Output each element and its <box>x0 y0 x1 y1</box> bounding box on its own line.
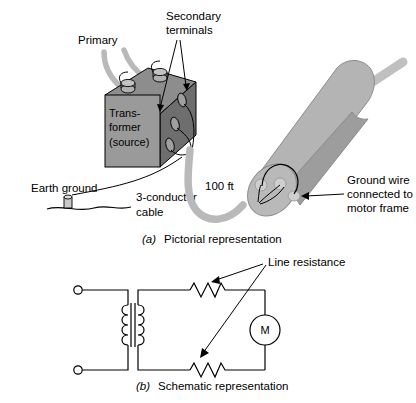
caption-b-index: (b) <box>136 380 150 392</box>
transformer-label-line1: Trans- <box>109 107 141 119</box>
transformer-core <box>131 303 135 347</box>
primary-lead-bottom <box>83 345 129 370</box>
ground-rod-top <box>64 195 72 199</box>
figure-container: Trans- former (source) Primary Secondary… <box>0 0 416 403</box>
cable-label-line2: cable <box>136 206 164 218</box>
ground-wire-label-line3: motor frame <box>347 202 409 214</box>
caption-b: (b)Schematic representation <box>136 380 288 392</box>
ground-wire-leader-line <box>306 194 344 196</box>
secondary-terminals-label-line1: Secondary <box>166 10 221 22</box>
transformer-primary-winding <box>122 305 128 345</box>
motor-frame-ground-pad <box>288 191 300 201</box>
transformer-label-line2: former <box>109 121 141 133</box>
schematic-terminal-top <box>74 286 82 294</box>
line-resistance-top-symbol <box>190 283 265 297</box>
caption-a-text: Pictorial representation <box>164 233 282 245</box>
line-resistance-bottom-symbol <box>190 363 265 377</box>
technical-figure: Trans- former (source) Primary Secondary… <box>0 0 416 403</box>
distance-label: 100 ft <box>205 180 235 192</box>
panel-a-pictorial: Trans- former (source) Primary Secondary… <box>31 10 413 245</box>
earth-ground-label: Earth ground <box>31 182 98 194</box>
primary-lead-top <box>83 290 129 305</box>
secondary-lead-bottom <box>138 345 190 370</box>
motor-group <box>237 61 403 226</box>
transformer-secondary-winding <box>138 305 144 345</box>
panel-b-schematic: M Line resistance (b)Schematic represent… <box>74 256 346 392</box>
secondary-terminals-label-line2: terminals <box>166 24 213 36</box>
line-resistance-label: Line resistance <box>268 256 345 268</box>
line-resistance-arrow-top <box>211 276 220 284</box>
ground-wire-label-line2: connected to <box>347 188 413 200</box>
motor-symbol-letter: M <box>260 324 269 336</box>
primary-terminal-2-top <box>153 68 167 75</box>
schematic-terminal-bottom <box>74 366 82 374</box>
caption-b-text: Schematic representation <box>158 380 288 392</box>
primary-label: Primary <box>78 34 118 46</box>
primary-terminal-1-top <box>121 79 135 86</box>
caption-a: (a)Pictorial representation <box>142 233 282 245</box>
line-resistance-leader-top <box>216 264 263 280</box>
primary-cable-left <box>104 52 122 88</box>
earth-ground-surface-line <box>47 207 131 210</box>
caption-a-index: (a) <box>142 233 156 245</box>
ground-wire-label-line1: Ground wire <box>347 174 410 186</box>
transformer-label-line3: (source) <box>109 136 149 148</box>
line-resistance-arrow-bottom <box>200 348 209 358</box>
secondary-lead-top <box>138 290 190 305</box>
